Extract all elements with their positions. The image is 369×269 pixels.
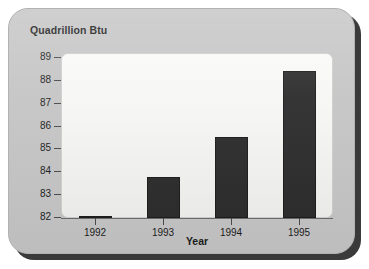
y-tick-label: 83	[40, 188, 51, 199]
x-axis-line	[61, 218, 333, 219]
y-tick-mark	[54, 103, 61, 104]
y-tick-mark	[54, 80, 61, 81]
bar-1993	[147, 177, 180, 218]
y-tick-mark	[54, 217, 61, 218]
y-tick-label: 87	[40, 97, 51, 108]
bar-1994	[215, 137, 248, 218]
y-tick-mark	[54, 148, 61, 149]
y-tick-label: 88	[40, 74, 51, 85]
x-tick-mark	[95, 218, 96, 225]
x-axis-title: Year	[61, 235, 333, 247]
y-tick-mark	[54, 194, 61, 195]
bar-1995	[283, 71, 316, 218]
y-tick-label: 89	[40, 51, 51, 62]
y-axis-title: Quadrillion Btu	[30, 24, 107, 36]
x-tick-mark	[299, 218, 300, 225]
chart-panel: Quadrillion Btu 8283848586878889 1992199…	[8, 8, 355, 254]
chart-figure: Quadrillion Btu 8283848586878889 1992199…	[0, 0, 369, 269]
x-tick-mark	[231, 218, 232, 225]
x-tick-mark	[163, 218, 164, 225]
y-tick-label: 86	[40, 120, 51, 131]
y-tick-label: 84	[40, 165, 51, 176]
y-tick-mark	[54, 126, 61, 127]
y-tick-mark	[54, 171, 61, 172]
y-tick-mark	[54, 57, 61, 58]
y-tick-label: 82	[40, 211, 51, 222]
y-tick-label: 85	[40, 142, 51, 153]
